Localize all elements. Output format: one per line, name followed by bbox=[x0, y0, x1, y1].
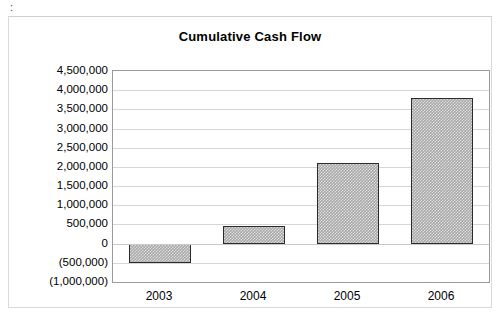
bar-2006 bbox=[411, 98, 473, 244]
y-axis-tick-label: 0 bbox=[4, 238, 108, 249]
y-axis-tick-labels: 4,500,0004,000,0003,500,0003,000,0002,50… bbox=[0, 70, 108, 283]
bar-2004 bbox=[223, 226, 285, 243]
y-axis-tick-label: (500,000) bbox=[4, 257, 108, 268]
x-axis-tick-label-2005: 2005 bbox=[300, 289, 394, 303]
bar-2005 bbox=[317, 163, 379, 244]
x-axis-tick-label-2003: 2003 bbox=[112, 289, 206, 303]
chart-title: Cumulative Cash Flow bbox=[0, 29, 500, 44]
y-axis-tick-label: (1,000,000) bbox=[4, 276, 108, 287]
y-axis-tick-label: 3,000,000 bbox=[4, 123, 108, 134]
scan-artifact-mark: : bbox=[10, 3, 13, 13]
y-axis-tick-label: 4,000,000 bbox=[4, 84, 108, 95]
y-axis-tick-label: 3,500,000 bbox=[4, 103, 108, 114]
plot-area bbox=[112, 70, 490, 283]
artifact-glyph: : bbox=[10, 3, 13, 12]
x-axis-tick-label-2004: 2004 bbox=[206, 289, 300, 303]
y-axis-tick-label: 2,000,000 bbox=[4, 161, 108, 172]
y-axis-tick-label: 4,500,000 bbox=[4, 65, 108, 76]
gridline bbox=[113, 263, 489, 264]
y-axis-tick-label: 2,500,000 bbox=[4, 142, 108, 153]
x-axis-tick-label-2006: 2006 bbox=[394, 289, 488, 303]
zero-baseline bbox=[113, 244, 489, 245]
y-axis-tick-label: 500,000 bbox=[4, 218, 108, 229]
y-axis-tick-label: 1,000,000 bbox=[4, 199, 108, 210]
bar-2003 bbox=[129, 244, 191, 263]
chart-page: : Cumulative Cash Flow 4,500,0004,000,00… bbox=[0, 0, 500, 325]
x-axis-tick-labels: 2003200420052006 bbox=[112, 289, 490, 309]
y-axis-tick-label: 1,500,000 bbox=[4, 180, 108, 191]
gridline bbox=[113, 90, 489, 91]
